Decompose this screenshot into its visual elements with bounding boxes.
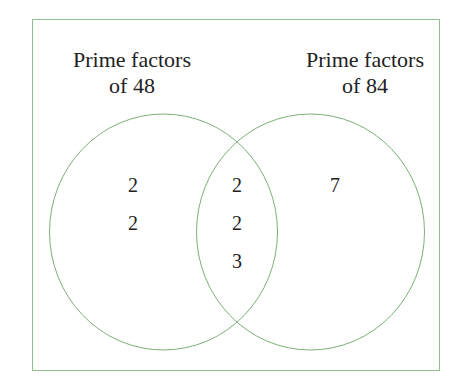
intersection-value: 2 bbox=[227, 175, 247, 195]
intersection-value: 2 bbox=[227, 213, 247, 233]
set-84-only-value: 7 bbox=[325, 175, 345, 195]
set-84-label-line1: Prime factors bbox=[270, 47, 457, 73]
set-48-label-line2: of 48 bbox=[37, 73, 227, 99]
set-48-label-line1: Prime factors bbox=[37, 47, 227, 73]
set-48-label: Prime factors of 48 bbox=[37, 47, 227, 99]
set-84-label-line2: of 84 bbox=[270, 73, 457, 99]
intersection-value: 3 bbox=[227, 251, 247, 271]
set-84-label: Prime factors of 84 bbox=[270, 47, 457, 99]
set-48-only-value: 2 bbox=[123, 175, 143, 195]
set-48-only-value: 2 bbox=[123, 213, 143, 233]
